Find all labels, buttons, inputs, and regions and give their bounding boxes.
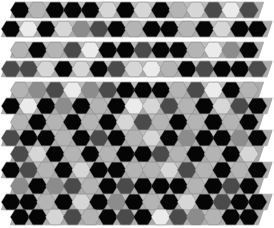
hexagon-tiling bbox=[0, 0, 274, 228]
